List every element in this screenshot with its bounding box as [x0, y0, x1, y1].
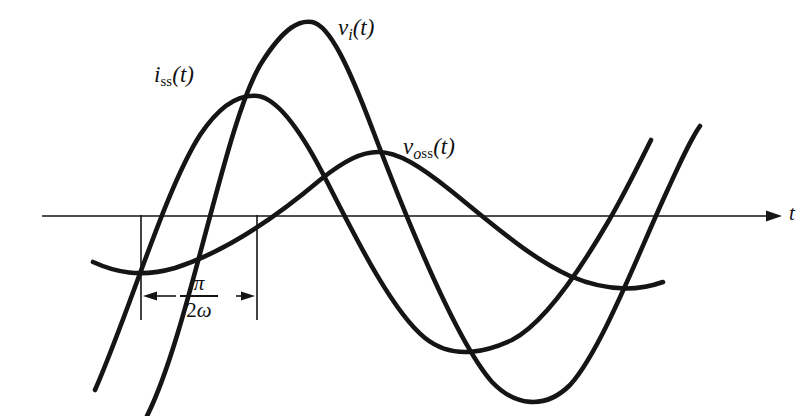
fraction-denominator: 2ω	[173, 297, 225, 322]
fraction-denominator-coeff: 2	[186, 298, 197, 322]
fraction-denominator-symbol: ω	[197, 298, 212, 322]
label-axis-t: t	[789, 203, 795, 224]
dimension-arrowhead-left	[143, 292, 157, 301]
label-v-oss: voss(t)	[403, 135, 455, 162]
label-v-i: vi(t)	[338, 16, 374, 43]
time-axis-arrowhead	[766, 211, 782, 222]
waveform-figure: iss(t) vi(t) voss(t) t π 2ω	[0, 0, 812, 416]
curve-v-i	[147, 22, 700, 416]
curve-i-ss	[95, 96, 651, 390]
dimension-arrowhead-right	[241, 292, 255, 301]
label-i-ss: iss(t)	[154, 63, 194, 89]
fraction-numerator: π	[173, 272, 225, 295]
phase-shift-fraction: π 2ω	[173, 272, 225, 322]
waveform-plot	[0, 0, 812, 416]
time-axis	[42, 211, 782, 222]
